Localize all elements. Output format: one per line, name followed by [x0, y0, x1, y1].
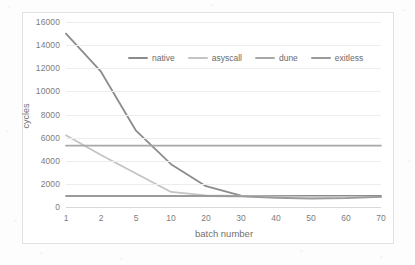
scan-speckle: [402, 9, 405, 11]
gridline: [66, 115, 381, 116]
y-axis-tick-label: 12000: [36, 63, 60, 73]
x-axis-tick-label: 40: [271, 213, 280, 223]
scan-speckle: [210, 4, 213, 6]
x-axis-tick-label: 50: [306, 213, 315, 223]
line-chart: cycles batch number 02000400060008000100…: [0, 0, 415, 265]
chart-legend: nativeasyscallduneexitless: [128, 53, 363, 63]
legend-label: native: [152, 53, 175, 63]
y-axis-tick-label: 2000: [41, 179, 60, 189]
scan-speckle: [6, 130, 9, 132]
y-axis-title: cycles: [21, 103, 31, 128]
gridline: [66, 138, 381, 139]
scan-speckle: [40, 252, 43, 254]
scan-speckle: [14, 220, 17, 222]
series-line-asyscall: [66, 135, 381, 197]
x-axis-tick-label: 70: [376, 213, 385, 223]
scan-speckle: [300, 250, 303, 252]
y-axis-tick-label: 10000: [36, 86, 60, 96]
legend-item-exitless[interactable]: exitless: [311, 53, 363, 63]
y-axis-tick-label: 0: [55, 202, 60, 212]
y-axis-tick-label: 6000: [41, 133, 60, 143]
y-axis-tick-label: 4000: [41, 156, 60, 166]
plot-area: 0200040006000800010000120001400016000 12…: [66, 22, 381, 207]
legend-swatch-icon: [311, 57, 331, 59]
x-axis-tick-label: 2: [99, 213, 104, 223]
legend-swatch-icon: [188, 57, 208, 59]
legend-label: asyscall: [212, 53, 242, 63]
legend-swatch-icon: [128, 57, 148, 59]
gridline: [66, 161, 381, 162]
gridline: [66, 68, 381, 69]
legend-label: dune: [279, 53, 298, 63]
x-axis-tick-label: 30: [236, 213, 245, 223]
legend-item-native[interactable]: native: [128, 53, 175, 63]
scan-speckle: [8, 6, 11, 8]
x-axis-tick-label: 1: [64, 213, 69, 223]
scan-speckle: [380, 256, 383, 258]
gridline: [66, 45, 381, 46]
scan-speckle: [408, 160, 411, 162]
legend-item-dune[interactable]: dune: [255, 53, 298, 63]
x-axis-tick-label: 5: [134, 213, 139, 223]
scan-speckle: [120, 258, 123, 260]
x-axis-tick-label: 20: [201, 213, 210, 223]
legend-swatch-icon: [255, 57, 275, 59]
y-axis-tick-label: 8000: [41, 110, 60, 120]
gridline: [66, 184, 381, 185]
gridline: [66, 22, 381, 23]
y-axis-tick-label: 16000: [36, 17, 60, 27]
gridline: [66, 91, 381, 92]
x-axis-tick-label: 10: [166, 213, 175, 223]
y-axis-tick-label: 14000: [36, 40, 60, 50]
gridline: [66, 207, 381, 208]
x-axis-tick-label: 60: [341, 213, 350, 223]
legend-label: exitless: [335, 53, 363, 63]
x-axis-title: batch number: [195, 228, 253, 239]
legend-item-asyscall[interactable]: asyscall: [188, 53, 242, 63]
